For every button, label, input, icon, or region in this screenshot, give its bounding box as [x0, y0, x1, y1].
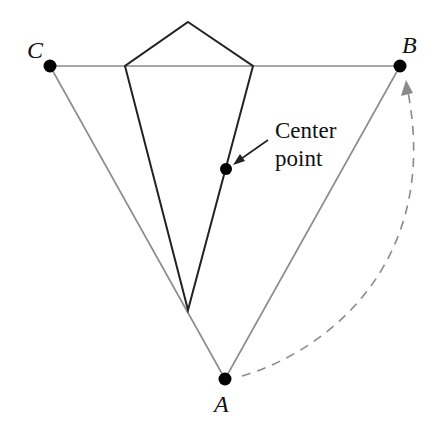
label-b: B	[402, 32, 417, 58]
triangle	[50, 66, 400, 379]
center-label-line2: point	[275, 146, 323, 171]
label-a: A	[212, 391, 229, 417]
point-b-dot	[394, 60, 407, 73]
label-c: C	[27, 37, 44, 63]
arc-arrowhead-icon	[401, 80, 413, 96]
edge-ba	[225, 66, 400, 379]
center-label-line1: Center	[275, 118, 337, 143]
center-point-dot	[220, 163, 232, 175]
point-c-dot	[44, 60, 57, 73]
rotation-diagram: C B A Center point	[0, 0, 441, 432]
point-a-dot	[219, 373, 232, 386]
pointer-arrowhead-icon	[233, 154, 245, 165]
